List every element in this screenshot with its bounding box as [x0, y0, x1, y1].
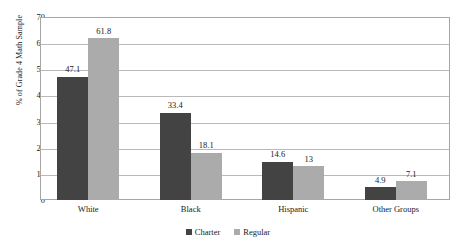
bar[interactable] — [191, 153, 222, 200]
bar-group: 47.161.8 — [57, 17, 119, 200]
legend-item[interactable]: Regular — [234, 228, 270, 237]
bar-value-label: 4.9 — [375, 176, 386, 185]
bar[interactable] — [262, 162, 293, 200]
bar[interactable] — [365, 187, 396, 200]
legend-item[interactable]: Charter — [186, 228, 221, 237]
x-axis-tick-label: Black — [181, 204, 201, 214]
bar-value-label: 18.1 — [199, 141, 214, 150]
bars-layer: 47.161.833.418.114.6134.97.1 — [40, 17, 450, 200]
bar[interactable] — [293, 166, 324, 200]
bar-group: 14.613 — [262, 17, 324, 200]
bar[interactable] — [396, 181, 427, 200]
bar-group: 4.97.1 — [365, 17, 427, 200]
bar[interactable] — [57, 77, 88, 200]
x-axis-tick-label: Other Groups — [372, 204, 419, 214]
bar[interactable] — [88, 38, 119, 200]
chart-legend: CharterRegular — [0, 228, 456, 237]
bar-chart: % of Grade 4 Math Sample 010203040506070… — [0, 0, 456, 248]
bar-value-label: 13 — [305, 155, 314, 164]
x-axis-tick-labels: WhiteBlackHispanicOther Groups — [40, 204, 450, 218]
bar-value-label: 7.1 — [406, 170, 417, 179]
bar-value-label: 47.1 — [65, 65, 80, 74]
bar-group: 33.418.1 — [160, 17, 222, 200]
legend-item-label: Charter — [195, 228, 221, 237]
bar[interactable] — [160, 113, 191, 200]
bar-value-label: 14.6 — [270, 150, 285, 159]
bar-value-label: 61.8 — [96, 27, 111, 36]
x-axis-tick-label: White — [78, 204, 99, 214]
legend-item-label: Regular — [243, 228, 270, 237]
square-icon — [234, 229, 240, 235]
x-axis-tick-label: Hispanic — [278, 204, 308, 214]
bar-value-label: 33.4 — [168, 101, 183, 110]
square-icon — [186, 229, 192, 235]
